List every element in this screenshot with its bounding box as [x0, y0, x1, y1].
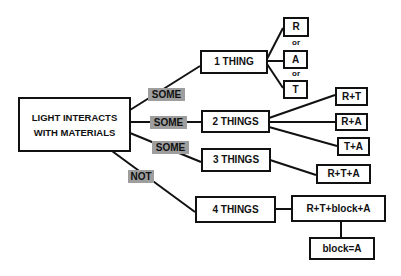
node-4-things: 4 THINGS	[195, 196, 276, 223]
note-block-a: block=A	[309, 237, 375, 260]
outcome-r-t-a: R+T+A	[316, 164, 371, 184]
or-separator-2: or	[283, 69, 309, 78]
or-separator-1: or	[283, 38, 309, 47]
root-node: LIGHT INTERACTS WITH MATERIALS	[18, 97, 131, 152]
edge-label-not: NOT	[128, 170, 154, 183]
root-label: LIGHT INTERACTS WITH MATERIALS	[20, 110, 129, 140]
outcome-r-t-block-a: R+T+block+A	[291, 195, 386, 222]
edge-label-some-2: SOME	[150, 116, 187, 129]
node-1-thing: 1 THING	[200, 50, 268, 74]
outcome-t-a: T+A	[337, 137, 370, 156]
outcome-r-a: R+A	[335, 113, 368, 131]
outcome-t: T	[283, 80, 308, 99]
node-2-things: 2 THINGS	[201, 110, 270, 133]
node-3-things: 3 THINGS	[201, 148, 271, 172]
diagram-canvas: LIGHT INTERACTS WITH MATERIALS SOME SOME…	[0, 0, 401, 276]
outcome-a: A	[283, 50, 308, 69]
edge-label-some-1: SOME	[148, 88, 185, 101]
outcome-r: R	[283, 17, 309, 37]
outcome-r-t: R+T	[335, 87, 368, 106]
edge-label-some-3: SOME	[152, 141, 189, 154]
